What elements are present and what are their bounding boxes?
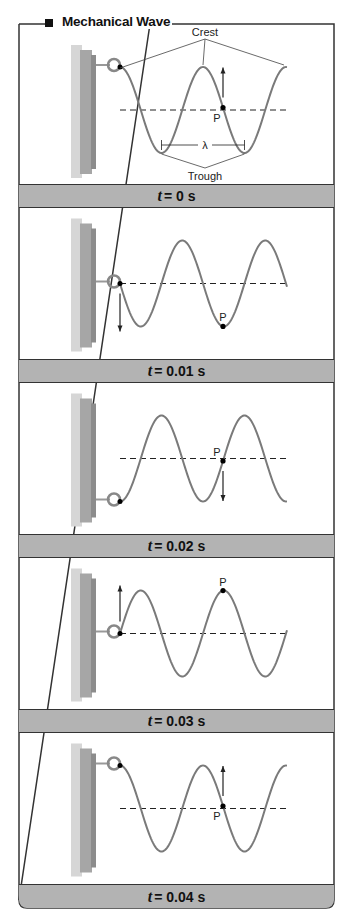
wavelength-label: λ [202,139,208,151]
point-p [220,458,225,463]
wave-panel-2: P [71,394,287,527]
point-p-label: P [219,576,226,588]
caption-t3: t= 0.03 s [19,709,334,733]
point-p [220,105,225,110]
title-bullet-icon [45,19,53,27]
caption-t0: t= 0 s [19,184,334,208]
source-point [118,763,123,768]
point-p-label: P [213,112,220,124]
point-p [220,803,225,808]
point-p-label: P [213,446,220,458]
time-variable: t [158,187,162,205]
wave-panel-0: PCrestTroughλ [71,26,287,182]
wave-panel-4: P [71,744,287,877]
time-variable: t [148,888,152,906]
time-value: = 0 s [164,188,196,204]
figure-frame: PCrestTroughλPPPP [0,0,352,918]
time-variable: t [148,362,152,380]
time-value: = 0.03 s [154,713,205,729]
caption-t2: t= 0.02 s [19,534,334,558]
time-value: = 0.04 s [154,889,205,905]
figure-title: Mechanical Wave [60,14,172,29]
point-p-label: P [213,810,220,822]
point-p-label: P [219,311,226,323]
point-p [220,324,225,329]
source-point [118,281,123,286]
wave-panel-3: P [71,569,287,702]
source-point [118,499,123,504]
time-value: = 0.01 s [154,363,205,379]
time-variable: t [148,712,152,730]
crest-label: Crest [192,26,218,38]
time-value: = 0.02 s [154,538,205,554]
point-p [220,588,225,593]
source-point [118,631,123,636]
trough-label: Trough [188,170,222,182]
caption-t4: t= 0.04 s [19,884,334,908]
time-variable: t [148,537,152,555]
caption-t1: t= 0.01 s [19,359,334,383]
